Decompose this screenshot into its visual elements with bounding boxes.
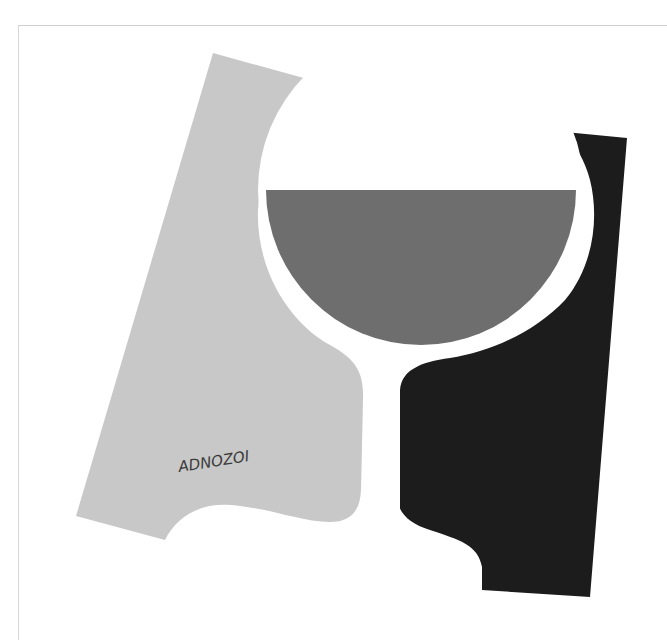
wine-glass-artwork [0,0,667,640]
